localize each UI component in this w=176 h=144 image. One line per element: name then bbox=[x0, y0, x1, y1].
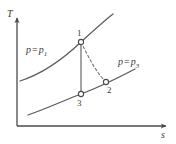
isobar-label-p1: p=p1 bbox=[26, 45, 47, 58]
isobar-label-p3-subscript: 3 bbox=[136, 62, 140, 70]
state-point-label-2: 2 bbox=[107, 86, 112, 95]
temperature-axis-label: T bbox=[7, 9, 13, 19]
state-point-marker-3 bbox=[78, 91, 83, 96]
isobar-label-p1-equals: = bbox=[31, 44, 39, 55]
isobar-label-p3-equals: = bbox=[123, 56, 131, 67]
state-point-label-1: 1 bbox=[77, 29, 82, 38]
ts-diagram-figure: T s p=p1 p=p3 1 2 3 bbox=[0, 0, 176, 144]
entropy-axis-label: s bbox=[161, 130, 165, 140]
isobar-label-p1-subscript: 1 bbox=[44, 50, 48, 58]
state-point-marker-1 bbox=[78, 39, 83, 44]
state-point-label-3: 3 bbox=[77, 99, 82, 108]
diagram-canvas bbox=[0, 0, 176, 144]
process-line-1-2 bbox=[81, 42, 106, 82]
isobar-label-p3: p=p3 bbox=[118, 57, 139, 70]
state-point-marker-2 bbox=[103, 79, 108, 84]
